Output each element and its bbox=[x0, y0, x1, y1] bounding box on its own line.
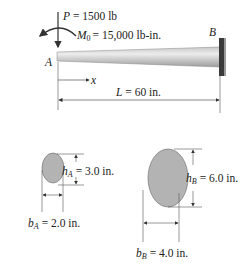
beam bbox=[57, 38, 226, 76]
length-label: L = 60 in. bbox=[115, 86, 161, 98]
cross-section-a: hA= 3.0 in. bA= 2.0 in. bbox=[28, 153, 114, 231]
tapered-beam-diagram: A B P = 1500 lb M0= 15,000 lb-in. x L = … bbox=[0, 0, 247, 265]
section-b-ellipse bbox=[148, 149, 188, 207]
fixed-wall-support bbox=[219, 38, 224, 76]
section-b-width-label: bB= 4.0 in. bbox=[136, 247, 188, 261]
section-a-ellipse bbox=[42, 153, 64, 183]
end-a-label: A bbox=[44, 56, 53, 68]
section-b-height-label: hB= 6.0 in. bbox=[186, 172, 238, 186]
section-a-width-label: bA= 2.0 in. bbox=[28, 217, 80, 231]
x-axis-label: x bbox=[90, 74, 97, 86]
load-label: P = 1500 lb bbox=[62, 10, 117, 22]
cross-section-b: hB= 6.0 in. bB= 4.0 in. bbox=[136, 149, 238, 261]
moment-label: M0= 15,000 lb-in. bbox=[76, 29, 161, 43]
end-b-label: B bbox=[209, 26, 216, 38]
tapered-beam-body bbox=[57, 47, 220, 67]
wall-shade bbox=[224, 38, 226, 76]
section-a-height-label: hA= 3.0 in. bbox=[62, 165, 114, 179]
